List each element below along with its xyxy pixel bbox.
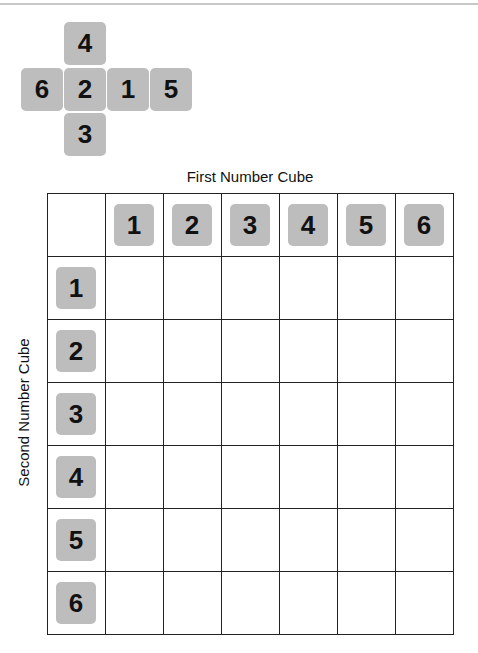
outcome-cell[interactable] bbox=[396, 257, 454, 320]
outcome-cell[interactable] bbox=[280, 257, 338, 320]
outcome-cell[interactable] bbox=[338, 383, 396, 446]
outcome-cell[interactable] bbox=[106, 383, 164, 446]
net-face-right: 1 bbox=[107, 68, 149, 111]
column-header-tile: 1 bbox=[114, 204, 154, 246]
outcome-cell[interactable] bbox=[164, 509, 222, 572]
net-face-left: 6 bbox=[21, 68, 63, 111]
outcome-cell[interactable] bbox=[280, 572, 338, 635]
row-header-tile: 1 bbox=[56, 267, 96, 309]
row-header: 6 bbox=[48, 572, 106, 635]
row-header-tile: 2 bbox=[56, 330, 96, 372]
outcome-cell[interactable] bbox=[106, 446, 164, 509]
top-divider bbox=[0, 3, 478, 5]
column-header: 6 bbox=[396, 194, 454, 257]
column-header-tile: 5 bbox=[346, 204, 386, 246]
row-header: 4 bbox=[48, 446, 106, 509]
outcome-cell[interactable] bbox=[280, 446, 338, 509]
row-header-tile: 4 bbox=[56, 456, 96, 498]
table-row: 3 bbox=[48, 383, 454, 446]
outcome-cell[interactable] bbox=[164, 257, 222, 320]
outcome-cell[interactable] bbox=[222, 383, 280, 446]
outcome-cell[interactable] bbox=[338, 509, 396, 572]
outcome-cell[interactable] bbox=[338, 320, 396, 383]
outcome-cell[interactable] bbox=[222, 320, 280, 383]
column-header: 4 bbox=[280, 194, 338, 257]
outcome-cell[interactable] bbox=[106, 320, 164, 383]
outcome-cell[interactable] bbox=[338, 446, 396, 509]
table-row: 1 bbox=[48, 257, 454, 320]
row-header: 2 bbox=[48, 320, 106, 383]
outcome-cell[interactable] bbox=[280, 509, 338, 572]
outcome-cell[interactable] bbox=[280, 383, 338, 446]
outcome-cell[interactable] bbox=[222, 257, 280, 320]
column-header: 2 bbox=[164, 194, 222, 257]
row-header: 1 bbox=[48, 257, 106, 320]
net-face-bottom: 3 bbox=[64, 113, 106, 156]
net-face-top: 4 bbox=[64, 22, 106, 65]
column-header-tile: 4 bbox=[288, 204, 328, 246]
header-row: 1 2 3 4 5 6 bbox=[48, 194, 454, 257]
table-row: 6 bbox=[48, 572, 454, 635]
outcome-cell[interactable] bbox=[280, 320, 338, 383]
outcome-cell[interactable] bbox=[164, 446, 222, 509]
outcome-cell[interactable] bbox=[106, 257, 164, 320]
net-face-far-right: 5 bbox=[150, 68, 192, 111]
outcome-cell[interactable] bbox=[338, 572, 396, 635]
outcome-cell[interactable] bbox=[106, 572, 164, 635]
column-header: 3 bbox=[222, 194, 280, 257]
x-axis-title: First Number Cube bbox=[47, 168, 453, 185]
row-header: 5 bbox=[48, 509, 106, 572]
column-header: 1 bbox=[106, 194, 164, 257]
table-row: 2 bbox=[48, 320, 454, 383]
outcome-cell[interactable] bbox=[396, 509, 454, 572]
table-row: 4 bbox=[48, 446, 454, 509]
outcome-cell[interactable] bbox=[164, 383, 222, 446]
column-header-tile: 2 bbox=[172, 204, 212, 246]
outcome-cell[interactable] bbox=[396, 320, 454, 383]
outcome-cell[interactable] bbox=[396, 383, 454, 446]
column-header-tile: 3 bbox=[230, 204, 270, 246]
table-row: 5 bbox=[48, 509, 454, 572]
column-header: 5 bbox=[338, 194, 396, 257]
outcome-cell[interactable] bbox=[164, 320, 222, 383]
row-header: 3 bbox=[48, 383, 106, 446]
outcome-cell[interactable] bbox=[396, 446, 454, 509]
corner-cell bbox=[48, 194, 106, 257]
row-header-tile: 3 bbox=[56, 393, 96, 435]
outcome-cell[interactable] bbox=[222, 509, 280, 572]
outcome-cell[interactable] bbox=[222, 572, 280, 635]
outcome-cell[interactable] bbox=[222, 446, 280, 509]
outcome-table: 1 2 3 4 5 6 1 2 3 4 5 6 bbox=[47, 193, 454, 635]
outcome-cell[interactable] bbox=[396, 572, 454, 635]
column-header-tile: 6 bbox=[404, 204, 444, 246]
outcome-cell[interactable] bbox=[164, 572, 222, 635]
net-face-center: 2 bbox=[64, 68, 106, 111]
row-header-tile: 6 bbox=[56, 582, 96, 624]
y-axis-title: Second Number Cube bbox=[15, 328, 32, 498]
outcome-cell[interactable] bbox=[338, 257, 396, 320]
row-header-tile: 5 bbox=[56, 519, 96, 561]
outcome-cell[interactable] bbox=[106, 509, 164, 572]
